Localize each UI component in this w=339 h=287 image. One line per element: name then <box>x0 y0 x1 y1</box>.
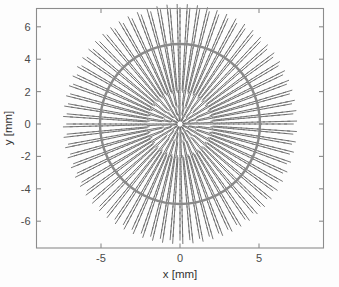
field-dash <box>183 94 184 99</box>
field-dash <box>63 116 73 117</box>
field-dash <box>287 131 297 132</box>
field-dash <box>173 234 174 244</box>
y-axis-label: y [mm] <box>2 111 14 146</box>
field-dash <box>177 140 178 144</box>
field-dash <box>176 153 177 158</box>
field-dash <box>178 133 179 136</box>
field-dash <box>205 127 209 128</box>
field-dash <box>177 136 178 139</box>
field-dash <box>182 109 183 112</box>
y-tick-label: 4 <box>24 53 30 65</box>
field-dash <box>177 146 178 150</box>
field-dash <box>201 127 205 128</box>
polar-dash-field-plot: -505 6420-2-4-6 x [mm] y [mm] <box>0 0 339 287</box>
field-dash <box>155 121 159 122</box>
field-dash <box>184 90 185 95</box>
field-dash <box>160 120 164 121</box>
field-dash <box>192 126 195 127</box>
y-tick-label: 2 <box>24 86 30 98</box>
field-dash <box>187 4 188 14</box>
field-dash <box>196 120 200 121</box>
field-dash <box>183 140 184 144</box>
field-dash <box>183 104 184 108</box>
field-dash <box>176 149 177 154</box>
figure-container: -505 6420-2-4-6 x [mm] y [mm] <box>0 0 339 287</box>
field-dash <box>183 98 184 102</box>
y-tick-label: 0 <box>24 118 30 130</box>
y-tick-label: -2 <box>21 150 31 162</box>
x-axis-label: x [mm] <box>163 268 198 280</box>
x-tick-label: 5 <box>256 252 262 264</box>
field-dash <box>208 128 213 129</box>
field-dash <box>196 127 200 128</box>
field-dash <box>147 120 152 121</box>
field-dash <box>151 120 155 121</box>
y-tick-label: -4 <box>21 183 31 195</box>
field-dash <box>165 121 168 122</box>
y-tick-label: 6 <box>24 21 30 33</box>
field-dash <box>177 104 178 108</box>
field-dash <box>168 122 171 123</box>
x-tick-label: 0 <box>177 252 183 264</box>
x-tick-label: -5 <box>96 252 106 264</box>
field-dash <box>160 127 164 128</box>
y-tick-label: -6 <box>21 215 31 227</box>
field-dash <box>189 126 192 127</box>
field-dash <box>182 112 183 115</box>
